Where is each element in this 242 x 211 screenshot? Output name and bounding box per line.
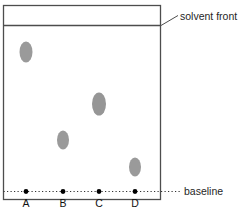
lane-label-a: A — [22, 197, 29, 209]
lane-label-d: D — [131, 197, 139, 209]
sample-spot-b — [57, 131, 69, 150]
lane-label-c: C — [95, 197, 103, 209]
solvent-front-label: solvent front — [180, 10, 237, 22]
tlc-diagram: A B C D solvent front baseline — [0, 0, 242, 211]
baseline-label: baseline — [184, 185, 223, 197]
sample-spot-d — [129, 158, 141, 177]
origin-dot-d — [133, 189, 138, 194]
origin-dot-c — [97, 189, 102, 194]
solvent-front-leader-line — [161, 16, 178, 26]
origin-dot-b — [61, 189, 66, 194]
origin-dot-a — [24, 189, 29, 194]
sample-spot-a — [20, 42, 33, 63]
lane-label-b: B — [59, 197, 66, 209]
sample-spot-c — [92, 93, 106, 116]
